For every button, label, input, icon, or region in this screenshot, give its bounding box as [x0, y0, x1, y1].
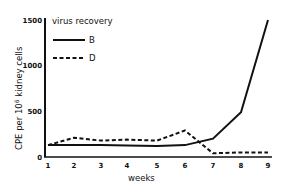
legend-label-b: B — [89, 35, 95, 45]
x-tick-labels: 123456789 — [46, 162, 271, 170]
x-tick-label: 6 — [183, 162, 188, 170]
y-tick-label: 1500 — [23, 17, 43, 25]
x-tick-label: 3 — [99, 162, 104, 170]
legend-title: virus recovery — [52, 16, 113, 26]
y-axis-label: CPE per 106 kidney cells — [13, 46, 24, 150]
series-d-line — [48, 131, 268, 154]
x-axis-label: weeks — [128, 173, 155, 183]
x-tick-label: 8 — [239, 162, 244, 170]
x-tick-label: 7 — [211, 162, 216, 170]
chart: 050010001500 123456789 weeks CPE per 106… — [0, 0, 283, 193]
y-tick-label: 0 — [37, 154, 42, 162]
y-tick-label: 1000 — [23, 62, 43, 70]
x-tick-label: 5 — [155, 162, 160, 170]
x-tick-label: 4 — [125, 162, 130, 170]
legend: virus recovery B D — [52, 16, 113, 63]
x-tick-label: 9 — [266, 162, 271, 170]
y-tick-label: 500 — [27, 108, 42, 116]
y-tick-labels: 050010001500 — [23, 17, 43, 162]
x-tick-label: 2 — [72, 162, 77, 170]
legend-label-d: D — [89, 53, 96, 63]
series-b-line — [48, 20, 268, 146]
x-tick-label: 1 — [46, 162, 51, 170]
